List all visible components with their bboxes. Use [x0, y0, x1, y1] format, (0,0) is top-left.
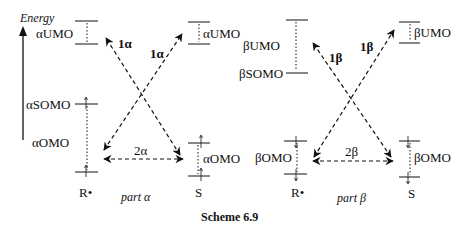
beta-right-omo-label: βOMO [414, 151, 451, 164]
beta-right-umo-label: βUMO [414, 26, 451, 39]
beta-transition-arrows [313, 30, 394, 161]
beta-part-caption: part β [337, 192, 366, 205]
alpha-left-umo-label: αUMO [36, 27, 73, 40]
alpha-left-levels [75, 21, 98, 172]
energy-axis-arrow [19, 26, 27, 140]
alpha-part-caption: part α [121, 191, 150, 204]
energy-axis-label: Energy [20, 12, 54, 25]
alpha-transition-arrows [104, 34, 183, 159]
alpha-transition-2-label: 2α [134, 144, 147, 157]
scheme-caption: Scheme 6.9 [201, 211, 258, 224]
beta-left-species-label: R• [291, 186, 304, 199]
alpha-left-species-label: R• [79, 186, 92, 199]
alpha-right-species-label: S [195, 186, 202, 199]
beta-transition-2-label: 2β [345, 145, 358, 158]
alpha-left-electrons [85, 97, 88, 177]
alpha-right-umo-label: αUMO [203, 27, 240, 40]
beta-transition-1a-label: 1β [329, 51, 342, 64]
beta-left-somo-label: βSOMO [239, 67, 283, 80]
alpha-left-somo-label: αSOMO [26, 98, 70, 111]
alpha-left-omo-label: αOMO [32, 136, 69, 149]
beta-left-umo-label: βUMO [243, 39, 280, 52]
alpha-right-omo-label: αOMO [203, 152, 240, 165]
beta-transition-1b-label: 1β [360, 40, 373, 53]
beta-left-omo-label: βOMO [255, 151, 292, 164]
beta-right-species-label: S [408, 187, 415, 200]
alpha-transition-1a-label: 1α [118, 37, 132, 50]
alpha-transition-1b-label: 1α [150, 47, 164, 60]
